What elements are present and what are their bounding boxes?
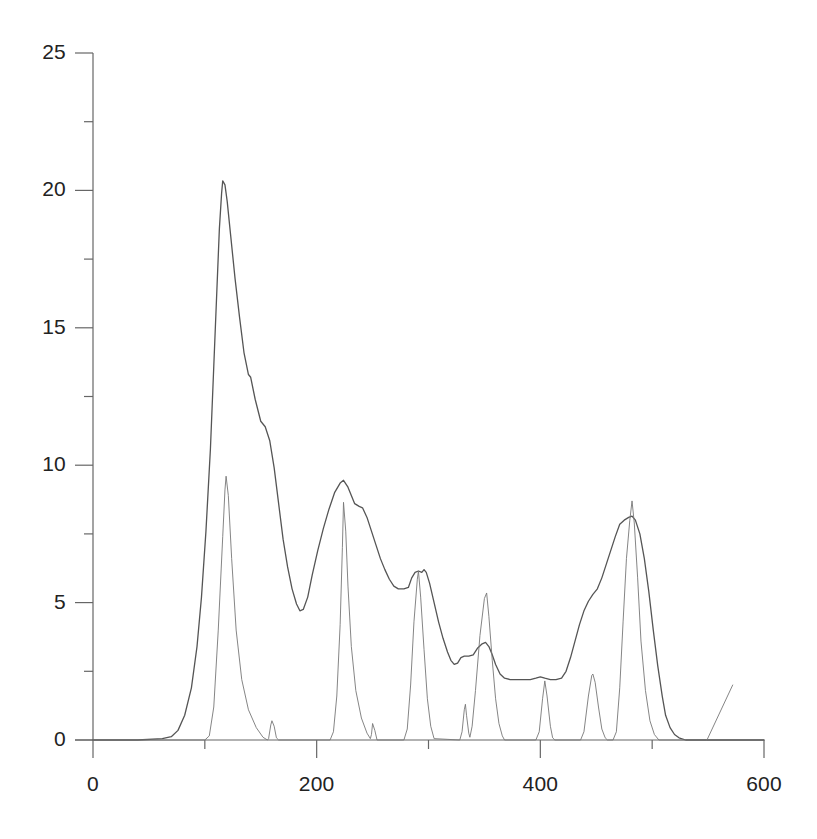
x-axis-tick-label: 600 bbox=[724, 772, 804, 796]
axis-layer bbox=[75, 53, 764, 758]
y-axis-tick-label: 0 bbox=[54, 727, 66, 751]
y-axis-tick-label: 15 bbox=[42, 315, 66, 339]
y-axis-tick-label: 20 bbox=[42, 177, 66, 201]
plot-area bbox=[0, 0, 817, 839]
y-axis-tick-label: 5 bbox=[54, 590, 66, 614]
series-layer bbox=[93, 181, 764, 740]
x-axis-tick-label: 0 bbox=[53, 772, 133, 796]
y-axis-tick-label: 25 bbox=[42, 40, 66, 64]
x-axis-tick-label: 400 bbox=[500, 772, 580, 796]
series-line-right-tail-segment bbox=[707, 685, 733, 740]
x-axis-tick-label: 200 bbox=[277, 772, 357, 796]
y-axis-tick-label: 10 bbox=[42, 452, 66, 476]
chart-container: 2520151050 0200400600 bbox=[0, 0, 817, 839]
series-line-smooth-envelope bbox=[93, 181, 764, 740]
